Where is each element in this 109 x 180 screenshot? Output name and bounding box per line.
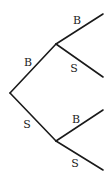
branch-lower-s — [56, 141, 103, 170]
label-root-lower: S — [23, 119, 31, 130]
branch-root-lower — [10, 93, 56, 141]
label-upper-b: B — [73, 15, 81, 26]
branch-upper-s — [56, 44, 103, 77]
tree-diagram: B S B S B S — [0, 0, 109, 180]
label-lower-b: B — [72, 114, 80, 125]
tree-edges — [0, 0, 109, 180]
label-root-upper: B — [24, 57, 32, 68]
branch-root-upper — [10, 44, 56, 93]
label-lower-s: S — [71, 158, 79, 169]
label-upper-s: S — [70, 63, 78, 74]
